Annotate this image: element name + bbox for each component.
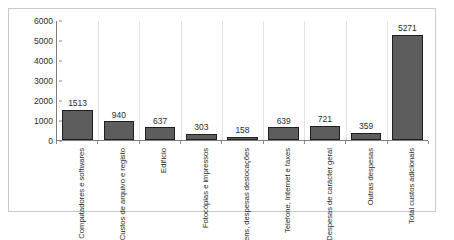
x-axis-label-line: Computadores — [77, 187, 86, 226]
x-axis-label-line: arquivo e — [118, 171, 127, 204]
x-axis-label-line: Viagens, — [242, 225, 251, 226]
x-axis-label-line: impressos — [201, 146, 210, 183]
x-axis-tick-mark — [139, 141, 140, 144]
x-axis-label-slot: Viagens,despesasdeslocações — [221, 145, 262, 211]
bar-slot: 158 — [222, 21, 263, 140]
y-axis-tick-label: 4000 — [15, 57, 53, 66]
x-axis-label-line: carácter geral — [325, 146, 334, 194]
x-axis-label-slot: Outrasdespesas — [345, 145, 386, 211]
x-axis-label-line: despesas — [242, 190, 251, 225]
x-axis-tick-mark — [263, 141, 264, 144]
x-axis-tick-mark — [56, 141, 57, 144]
bar-slot: 303 — [181, 21, 222, 140]
x-axis-label: Custos dearquivo eregisto — [118, 146, 127, 226]
bar[interactable] — [268, 127, 299, 140]
x-axis-label-line: despesas — [366, 146, 375, 181]
x-axis-tick-mark — [97, 141, 98, 144]
x-axis-label-line: Telefone, — [283, 200, 292, 226]
x-axis-label-line: e softwares — [77, 146, 86, 187]
bar-value-label: 940 — [98, 111, 139, 120]
bar-value-label: 639 — [263, 117, 304, 126]
bar-chart-figure: 0100020003000400050006000 15139406373031… — [8, 8, 436, 212]
y-axis-tick-label: 1000 — [15, 117, 53, 126]
x-axis-label-slot: Despesas decarácter geral — [304, 145, 345, 211]
y-axis-tick-label: 6000 — [15, 17, 53, 26]
bar-slot: 940 — [98, 21, 139, 140]
bar-value-label: 158 — [222, 126, 263, 135]
bar[interactable] — [104, 121, 135, 140]
x-axis-label: Edifício — [159, 146, 168, 173]
x-axis-label-line: Internet e — [283, 166, 292, 200]
bar[interactable] — [227, 137, 258, 140]
bar[interactable] — [62, 110, 93, 140]
bar-value-label: 5271 — [387, 24, 428, 33]
x-axis-label: Fotocópias eimpressos — [201, 146, 210, 226]
x-axis-label: Despesas decarácter geral — [325, 146, 334, 226]
y-axis-tick-label: 2000 — [15, 97, 53, 106]
x-axis-label-line: adicionais — [407, 146, 416, 182]
x-axis-label: Outrasdespesas — [366, 146, 375, 205]
x-axis-label-slot: Computadorese softwares — [56, 145, 97, 211]
y-axis-tick-label: 0 — [15, 137, 53, 146]
x-axis-tick-mark — [221, 141, 222, 144]
bar-slot: 359 — [346, 21, 387, 140]
bar[interactable] — [186, 134, 217, 140]
x-axis-labels: Computadorese softwaresCustos dearquivo … — [56, 145, 428, 211]
x-axis-label: Viagens,despesasdeslocações — [242, 146, 251, 226]
x-axis-tick-mark — [180, 141, 181, 144]
x-axis-label-slot: Custos dearquivo eregisto — [97, 145, 138, 211]
x-axis-tick-mark — [345, 141, 346, 144]
x-axis-label-slot: Fotocópias eimpressos — [180, 145, 221, 211]
y-axis-tick-label: 3000 — [15, 77, 53, 86]
bar[interactable] — [310, 126, 341, 140]
plot-wrapper: 0100020003000400050006000 15139406373031… — [9, 9, 435, 211]
bar-value-label: 721 — [304, 115, 345, 124]
x-axis-label-slot: Total custosadicionais — [387, 145, 428, 211]
bar-slot: 5271 — [387, 21, 428, 140]
bar-value-label: 637 — [139, 117, 180, 126]
bar-slot: 637 — [139, 21, 180, 140]
bar-value-label: 1513 — [57, 99, 98, 108]
bar[interactable] — [145, 127, 176, 140]
bar-value-label: 359 — [346, 122, 387, 131]
x-axis-label-line: Custos de — [118, 204, 127, 226]
x-axis-label: Total custosadicionais — [407, 146, 416, 224]
x-axis-label-slot: Edifício — [139, 145, 180, 211]
x-axis-label-line: registo — [118, 146, 127, 171]
y-axis-tick-label: 5000 — [15, 37, 53, 46]
y-axis: 0100020003000400050006000 — [15, 21, 53, 141]
bar-slot: 721 — [304, 21, 345, 140]
x-axis-label-line: Outras — [366, 181, 375, 206]
x-axis-tick-mark — [304, 141, 305, 144]
x-axis-label: Computadorese softwares — [77, 146, 86, 226]
x-axis-label-line: faxes — [283, 146, 292, 166]
x-axis-label: Telefone,Internet efaxes — [283, 146, 292, 226]
bar-slot: 639 — [263, 21, 304, 140]
bar-slot: 1513 — [57, 21, 98, 140]
bar-value-label: 303 — [181, 123, 222, 132]
bar[interactable] — [392, 35, 423, 140]
x-axis-tick-mark — [428, 141, 429, 144]
x-axis-label-line: Total custos — [407, 182, 416, 224]
x-axis-label-line: Fotocópias e — [201, 183, 210, 226]
x-axis-label-line: Edifício — [159, 146, 168, 173]
bar-series: 15139406373031586397213595271 — [57, 21, 428, 140]
x-axis-tick-mark — [387, 141, 388, 144]
x-axis-label-line: Despesas de — [325, 194, 334, 226]
x-axis-label-line: deslocações — [242, 146, 251, 190]
bar[interactable] — [351, 133, 382, 140]
x-axis-label-slot: Telefone,Internet efaxes — [263, 145, 304, 211]
plot-area: 15139406373031586397213595271 — [56, 21, 428, 141]
